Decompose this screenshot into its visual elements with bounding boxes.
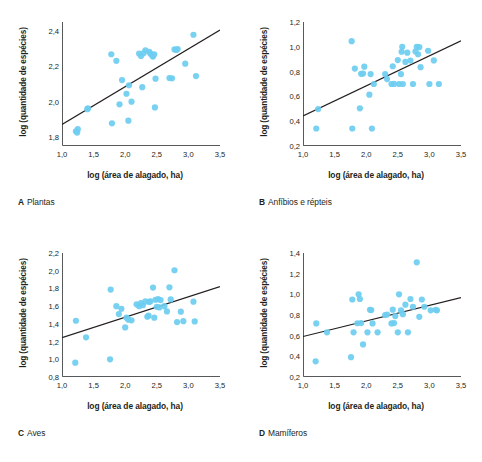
- x-tick-label: 3,0: [424, 150, 435, 159]
- y-tick-label: 1,0: [48, 355, 59, 364]
- y-tick-label: 2,2: [48, 249, 59, 258]
- panel-c: log (quantidade de espécies) 0,81,01,21,…: [0, 231, 241, 462]
- panel-d-plot-area: 0,20,40,60,81,01,21,41,01,52,02,53,03,5: [303, 253, 461, 377]
- x-tick-label: 1,0: [57, 381, 68, 390]
- y-tick-label: 1,4: [289, 249, 300, 258]
- x-tick-label: 2,5: [152, 150, 163, 159]
- y-tick-label: 2,0: [48, 266, 59, 275]
- y-tick-label: 0,8: [289, 311, 300, 320]
- panel-a-caption-text: Plantas: [27, 197, 55, 207]
- panel-b-plot-area: 0,20,40,60,81,01,21,01,52,02,53,03,5: [303, 22, 461, 146]
- y-tick-label: 1,4: [48, 319, 59, 328]
- panel-a-y-axis-title: log (quantidade de espécies): [18, 12, 30, 152]
- y-tick-label: 0,6: [289, 92, 300, 101]
- x-tick-label: 2,0: [361, 150, 372, 159]
- y-tick-label: 2,0: [48, 97, 59, 106]
- panel-b: log (quantidade de espécies) 0,20,40,60,…: [241, 0, 482, 231]
- panel-b-y-axis-title: log (quantidade de espécies): [259, 12, 271, 152]
- panel-b-x-axis-title: log (área de alagado, ha): [281, 170, 471, 180]
- panel-d-y-axis-title: log (quantidade de espécies): [259, 243, 271, 383]
- x-tick-label: 1,0: [298, 150, 309, 159]
- x-tick-label: 2,0: [361, 381, 372, 390]
- x-tick-label: 2,5: [393, 381, 404, 390]
- panel-c-caption-letter: C: [18, 428, 24, 438]
- panel-c-y-axis-title: log (quantidade de espécies): [18, 243, 30, 383]
- panel-a-caption-letter: A: [18, 197, 24, 207]
- x-tick-label: 1,0: [298, 381, 309, 390]
- panel-a-caption: APlantas: [18, 197, 55, 207]
- panel-d-caption-letter: D: [259, 428, 265, 438]
- x-tick-label: 1,0: [57, 150, 68, 159]
- panel-c-caption-text: Aves: [27, 428, 45, 438]
- x-tick-label: 1,5: [329, 150, 340, 159]
- y-tick-label: 1,2: [48, 337, 59, 346]
- y-tick-label: 1,0: [289, 42, 300, 51]
- y-tick-label: 0,6: [289, 331, 300, 340]
- panel-d-caption: DMamíferos: [259, 428, 307, 438]
- y-tick-label: 0,4: [289, 117, 300, 126]
- x-tick-label: 1,5: [329, 381, 340, 390]
- x-tick-label: 3,5: [456, 381, 467, 390]
- panel-b-caption-letter: B: [259, 197, 265, 207]
- y-tick-label: 0,4: [289, 352, 300, 361]
- x-tick-label: 3,0: [183, 150, 194, 159]
- x-tick-label: 2,5: [152, 381, 163, 390]
- panel-d-x-axis-title: log (área de alagado, ha): [281, 401, 471, 411]
- panel-c-x-axis-title: log (área de alagado, ha): [40, 401, 230, 411]
- x-tick-label: 3,0: [424, 381, 435, 390]
- x-tick-label: 1,5: [88, 381, 99, 390]
- x-tick-label: 1,5: [88, 150, 99, 159]
- panel-c-caption: CAves: [18, 428, 45, 438]
- panel-a-plot-area: 1,82,02,22,41,01,52,02,53,03,5: [62, 22, 220, 146]
- x-tick-label: 3,5: [215, 150, 226, 159]
- panel-d-caption-text: Mamíferos: [268, 428, 307, 438]
- x-tick-label: 2,0: [120, 150, 131, 159]
- x-tick-label: 2,0: [120, 381, 131, 390]
- panel-a: log (quantidade de espécies) 1,82,02,22,…: [0, 0, 241, 231]
- panel-b-caption-text: Anfíbios e répteis: [268, 197, 332, 207]
- x-tick-label: 3,5: [215, 381, 226, 390]
- y-tick-label: 1,0: [289, 290, 300, 299]
- y-tick-label: 1,6: [48, 302, 59, 311]
- panel-c-plot-area: 0,81,01,21,41,61,82,02,21,01,52,02,53,03…: [62, 253, 220, 377]
- y-tick-label: 0,8: [289, 67, 300, 76]
- y-tick-label: 1,8: [48, 284, 59, 293]
- panel-d: log (quantidade de espécies) 0,20,40,60,…: [241, 231, 482, 462]
- x-tick-label: 2,5: [393, 150, 404, 159]
- y-tick-label: 1,2: [289, 269, 300, 278]
- species-area-figure: log (quantidade de espécies) 1,82,02,22,…: [0, 0, 482, 462]
- x-tick-label: 3,0: [183, 381, 194, 390]
- y-tick-label: 1,8: [48, 133, 59, 142]
- y-tick-label: 1,2: [289, 18, 300, 27]
- x-tick-label: 3,5: [456, 150, 467, 159]
- panel-b-caption: BAnfíbios e répteis: [259, 197, 332, 207]
- y-tick-label: 2,2: [48, 62, 59, 71]
- y-tick-label: 2,4: [48, 26, 59, 35]
- panel-a-x-axis-title: log (área de alagado, ha): [40, 170, 230, 180]
